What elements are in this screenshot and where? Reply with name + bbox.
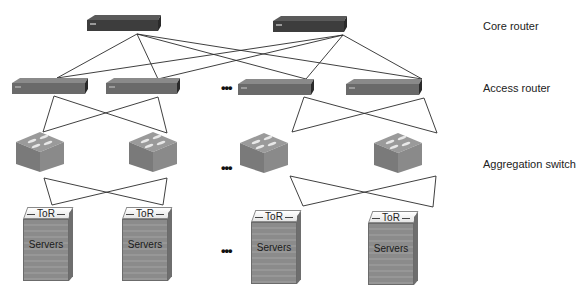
router-face: [87, 20, 158, 31]
aggregation-switch-icon: [129, 132, 177, 172]
router-top: [87, 15, 161, 20]
tor-label: ToR: [368, 212, 414, 223]
rack-side: [69, 208, 73, 281]
aggregation-switch-icon: [16, 132, 64, 172]
access-router-icon: [12, 78, 88, 94]
servers-label: Servers: [23, 239, 69, 250]
servers-label: Servers: [368, 243, 414, 254]
tor-rack-1: ToR Servers: [23, 207, 71, 282]
router-led: [276, 24, 282, 26]
servers-label: Servers: [251, 242, 297, 253]
servers-label: Servers: [122, 239, 168, 250]
access-router-icon: [346, 79, 422, 95]
router-top: [273, 16, 347, 21]
router-top: [238, 79, 314, 84]
router-top: [12, 78, 88, 83]
router-face: [346, 84, 419, 95]
router-led: [15, 86, 21, 88]
tor-rack-2: ToR Servers: [122, 207, 170, 282]
aggregation-switch-icon: [240, 133, 288, 173]
tor-label: ToR: [122, 208, 168, 219]
core-router-icon: [273, 16, 347, 32]
router-led: [109, 86, 115, 88]
network-diagram: Core router Access router Aggregation sw…: [0, 0, 576, 300]
router-led: [90, 23, 96, 25]
router-top: [346, 79, 422, 84]
router-top: [106, 78, 180, 83]
tor-rack-4: ToR Servers: [368, 211, 416, 286]
rack-side: [414, 212, 418, 285]
tor-label: ToR: [251, 211, 297, 222]
server-rack-icon: [368, 223, 414, 285]
server-rack-icon: [251, 222, 297, 284]
layer-label-access: Access router: [483, 82, 550, 94]
router-face: [238, 84, 311, 95]
rack-side: [297, 211, 301, 284]
core-router-icon: [87, 15, 161, 31]
server-rack-icon: [122, 219, 168, 281]
access-router-icon: [106, 78, 180, 94]
tor-rack-3: ToR Servers: [251, 210, 299, 285]
aggregation-switch-icon: [374, 133, 422, 173]
server-rack-icon: [23, 219, 69, 281]
router-led: [349, 87, 355, 89]
rack-side: [168, 208, 172, 281]
ellipsis-access: •••: [221, 83, 232, 93]
ellipsis-racks: •••: [221, 246, 232, 256]
router-led: [241, 87, 247, 89]
router-face: [12, 83, 85, 94]
access-router-icon: [238, 79, 314, 95]
router-face: [273, 21, 344, 32]
tor-label: ToR: [23, 208, 69, 219]
layer-label-aggregation: Aggregation switch: [483, 158, 576, 170]
ellipsis-aggregation: •••: [221, 163, 232, 173]
router-face: [106, 83, 177, 94]
layer-label-core: Core router: [483, 20, 539, 32]
